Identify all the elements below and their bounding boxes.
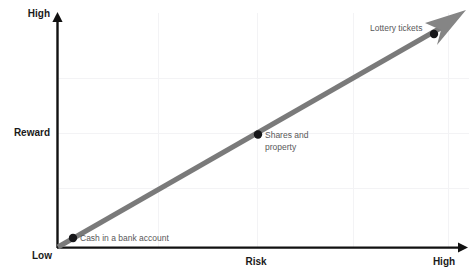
data-point-cash-marker[interactable]	[69, 234, 77, 242]
data-point-shares-label-line2: property	[265, 142, 297, 152]
y-axis-title: Reward	[14, 127, 50, 138]
data-point-lottery-label: Lottery tickets	[370, 23, 422, 33]
data-point-lottery-marker[interactable]	[430, 30, 438, 38]
x-axis-high-label: High	[433, 256, 455, 267]
y-axis-high-label: High	[28, 8, 50, 19]
risk-reward-chart: Cash in a bank account Shares and proper…	[0, 0, 474, 275]
data-point-shares-label-line1: Shares and	[265, 130, 309, 140]
y-axis-low-label: Low	[32, 250, 52, 261]
data-point-cash-label: Cash in a bank account	[80, 233, 169, 243]
data-point-shares-marker[interactable]	[254, 130, 262, 138]
chart-background	[0, 0, 474, 275]
x-axis-title: Risk	[245, 256, 267, 267]
chart-canvas: Cash in a bank account Shares and proper…	[0, 0, 474, 275]
